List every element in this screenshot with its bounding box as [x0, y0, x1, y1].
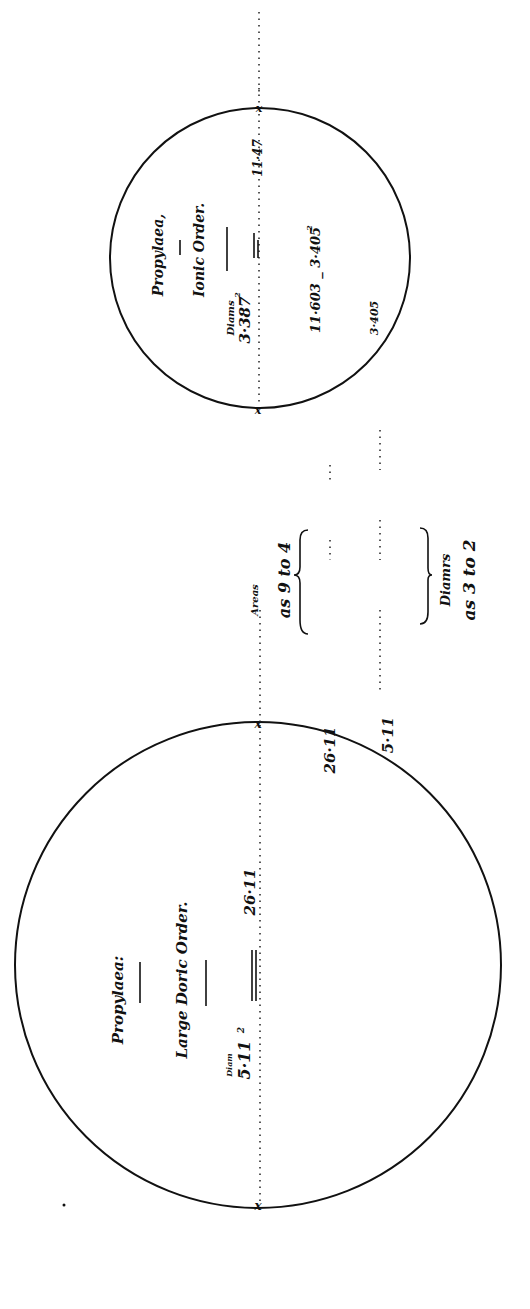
doric-diam-label: Diam [224, 1053, 234, 1078]
doric-ratio-value: 26·11 [241, 869, 259, 917]
ionic-diam-value: 3·387 [236, 296, 254, 344]
doric-title: Propylaea: [109, 956, 127, 1046]
doric-inner-value-2: 5·11 [379, 717, 397, 754]
diam-brace [420, 528, 432, 624]
ionic-formula: 11·603 _ 3·405 [308, 227, 324, 333]
diam-ratio: as 3 to 2 [459, 539, 479, 620]
ionic-top-tick: x [255, 102, 263, 115]
diam-label-middle: Diamrs [438, 553, 453, 607]
doric-bottom-tick: x [253, 1199, 262, 1213]
doric-diam-exponent: 2 [236, 1027, 246, 1034]
ionic-inner-value: 3·405 [368, 301, 381, 335]
areas-label: Areas [249, 584, 260, 617]
ionic-labels: Propylaea, Ionic Order. 3·387 Diams 2 11… [150, 139, 381, 344]
stray-mark [63, 1204, 66, 1207]
ionic-subtitle: Ionic Order. [191, 203, 207, 298]
doric-circle [15, 722, 501, 1208]
ionic-bottom-tick: x [254, 404, 262, 417]
areas-ratio: as 9 to 4 [275, 542, 294, 618]
doric-inner-value-1: 26·11 [321, 727, 339, 775]
ionic-diam-exponent: 2 [232, 292, 242, 299]
doric-labels: Propylaea: Large Doric Order. 5·11 Diam … [109, 717, 397, 1080]
ionic-formula-exponent: 2 [304, 225, 314, 232]
ionic-diam-label: Diams [225, 300, 236, 337]
ionic-ratio-value: 11·47 [251, 139, 265, 177]
doric-top-tick: x [253, 717, 262, 731]
doric-subtitle: Large Doric Order. [173, 901, 191, 1059]
middle-labels: Areas as 9 to 4 Diamrs as 3 to 2 [249, 539, 479, 620]
areas-brace [294, 530, 308, 634]
ionic-title: Propylaea, [150, 214, 166, 297]
diagram-canvas: x x Propylaea: Large Doric Order. 5·11 D… [0, 0, 530, 1309]
doric-diam-value: 5·11 [235, 1041, 254, 1080]
diagram-svg: x x Propylaea: Large Doric Order. 5·11 D… [0, 0, 530, 1309]
